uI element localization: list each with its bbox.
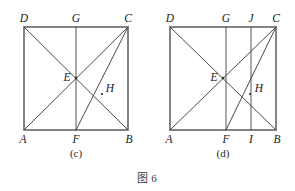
geometry-figure: D G C A F B E H (c) (0, 0, 295, 191)
panel-d-label-J: J (248, 12, 254, 24)
panel-c-point-E (75, 77, 78, 80)
panel-d-label-D: D (165, 12, 175, 24)
panel-c: D G C A F B E H (c) (18, 12, 132, 160)
panel-d-label-G: G (222, 12, 231, 24)
panel-c-label-A: A (18, 133, 27, 145)
panel-c-label-F: F (71, 133, 80, 145)
panel-d-label-F: F (221, 133, 230, 145)
panel-c-label-B: B (125, 133, 132, 145)
panel-d: D G J C A F I B E H (d) (164, 12, 280, 160)
panel-d-label-I: I (248, 133, 254, 145)
panel-d-label-H: H (254, 82, 264, 94)
panel-d-label-A: A (164, 133, 173, 145)
panel-c-label-C: C (124, 12, 132, 24)
panel-d-point-E (222, 77, 225, 80)
panel-d-sub-caption: (d) (217, 147, 230, 160)
panel-d-label-C: C (272, 12, 280, 24)
figure-caption: 图 6 (137, 172, 157, 184)
panel-d-label-E: E (209, 71, 217, 83)
panel-c-label-E: E (62, 71, 70, 83)
panel-c-label-H: H (105, 82, 115, 94)
panel-d-point-H (249, 93, 251, 95)
panel-c-sub-caption: (c) (70, 147, 83, 160)
panel-c-segment-CF (76, 27, 128, 130)
panel-d-label-B: B (273, 133, 280, 145)
figure-canvas: D G C A F B E H (c) (0, 0, 295, 191)
panel-c-label-G: G (72, 12, 81, 24)
panel-c-point-H (101, 93, 103, 95)
panel-c-label-D: D (19, 12, 29, 24)
